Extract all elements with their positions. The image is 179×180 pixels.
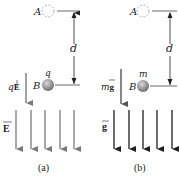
dimension-arrowhead-up (168, 12, 173, 18)
point-b-label: B (32, 80, 40, 91)
caption-a: (a) (38, 162, 49, 174)
field-arrows (114, 110, 172, 149)
charge-label: q (45, 68, 51, 78)
mass-label: m (139, 69, 148, 79)
field-label: g (102, 121, 107, 132)
charged-particle (42, 79, 54, 91)
point-a-marker (42, 5, 54, 17)
point-a-label: A (33, 6, 41, 17)
point-a-marker (137, 5, 149, 17)
mass-particle (137, 80, 149, 92)
panel-b: A d m B mg g (b) (101, 5, 177, 174)
distance-label: d (70, 42, 77, 55)
field-label: E (3, 123, 10, 134)
dimension-arrowhead-up (72, 12, 77, 18)
dimension-arrowhead-down (168, 79, 173, 85)
dimension-arrowhead-down (72, 78, 77, 84)
force-label: mg (101, 82, 115, 92)
caption-b: (b) (134, 162, 146, 174)
point-b-label: B (128, 81, 136, 92)
point-a-label: A (129, 6, 137, 17)
panel-a: A d q B qE E (a) (3, 5, 80, 174)
distance-label: d (166, 42, 173, 55)
field-arrows (16, 110, 74, 149)
diagram-canvas: A d q B qE E (a) (0, 0, 179, 180)
force-label: qE (8, 82, 20, 92)
